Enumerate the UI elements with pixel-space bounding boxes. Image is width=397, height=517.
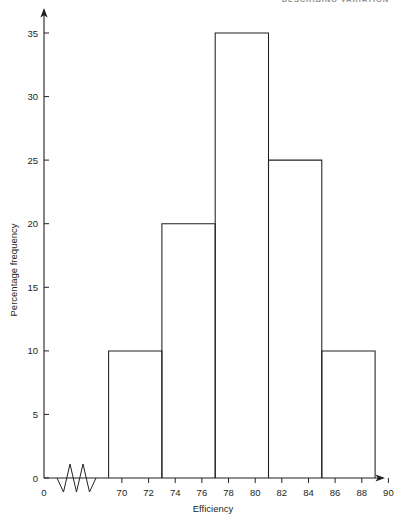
y-tick-label: 5 (33, 409, 38, 420)
x-tick-label: 76 (197, 487, 208, 498)
y-tick-label: 35 (27, 28, 38, 39)
chart-canvas: 0 5 10 15 20 25 30 35 (0, 0, 397, 517)
bar-81-85 (269, 160, 322, 478)
x-tick-labels: 70 72 74 76 78 80 82 84 86 88 90 0 (41, 487, 393, 498)
x-tick-label: 74 (170, 487, 181, 498)
x-tick-label: 84 (303, 487, 314, 498)
x-tick-label: 78 (223, 487, 234, 498)
histogram-chart: 0 5 10 15 20 25 30 35 (0, 0, 397, 517)
bar-69-73 (109, 351, 162, 478)
y-tick-label: 10 (27, 345, 38, 356)
bar-85-89 (322, 351, 375, 478)
y-tick-label: 0 (33, 473, 38, 484)
y-tick-label: 30 (27, 91, 38, 102)
x-origin-label: 0 (41, 487, 46, 498)
y-axis-title: Percentage frequency (8, 223, 19, 316)
x-tick-label: 88 (357, 487, 368, 498)
y-tick-label: 20 (27, 218, 38, 229)
y-tick-label: 15 (27, 282, 38, 293)
page-root: Describing Variation (0, 0, 397, 517)
y-tick-marks (44, 33, 49, 478)
bar-77-81 (215, 33, 268, 478)
x-tick-label: 90 (383, 487, 394, 498)
x-tick-label: 82 (277, 487, 288, 498)
bar-73-77 (162, 224, 215, 478)
histogram-bars (109, 33, 376, 478)
x-axis-title: Efficiency (193, 503, 234, 514)
x-tick-label: 80 (250, 487, 261, 498)
x-tick-label: 86 (330, 487, 341, 498)
y-axis (40, 8, 47, 478)
x-tick-label: 72 (143, 487, 154, 498)
y-tick-labels: 0 5 10 15 20 25 30 35 (27, 28, 38, 484)
x-tick-marks (122, 478, 389, 483)
y-tick-label: 25 (27, 155, 38, 166)
x-tick-label: 70 (117, 487, 128, 498)
